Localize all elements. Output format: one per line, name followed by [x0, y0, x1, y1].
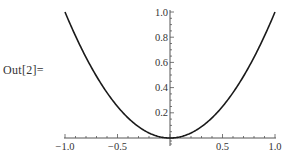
parabola-plot: −1.0−0.50.51.00.20.40.60.81.0: [0, 0, 287, 155]
x-tick-label: −1.0: [55, 141, 74, 152]
y-tick-label: 0.2: [155, 107, 168, 118]
y-tick-label: 1.0: [155, 7, 168, 18]
y-tick-label: 0.6: [155, 57, 168, 68]
x-tick-label: −0.5: [108, 141, 127, 152]
y-tick-label: 0.4: [155, 82, 169, 93]
x-tick-label: 0.5: [216, 141, 229, 152]
axis-tick-labels: −1.0−0.50.51.00.20.40.60.81.0: [55, 7, 281, 153]
x-tick-label: 1.0: [268, 141, 281, 152]
y-tick-label: 0.8: [155, 32, 168, 43]
